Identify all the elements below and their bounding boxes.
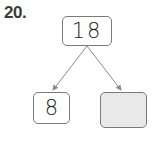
whole-box: 18 [62, 16, 112, 46]
part-box-blank[interactable] [100, 92, 147, 128]
arrow-right-icon [87, 46, 121, 90]
arrow-left-icon [53, 46, 87, 90]
part-box-left: 8 [33, 92, 70, 124]
